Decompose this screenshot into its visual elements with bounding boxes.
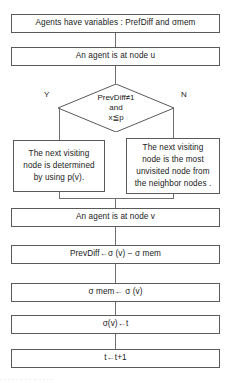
branch-no-line-2: node is the most xyxy=(135,154,212,166)
branch-yes-line-2: node is determined xyxy=(23,160,94,172)
connector-sigma-mem-to-sigma-v xyxy=(115,302,116,315)
branch-no-line-4: the neighbor nodes . xyxy=(135,178,212,190)
node-t-increment: t←t+1 xyxy=(11,349,220,368)
connector-merge-bar xyxy=(59,198,174,199)
connector-agent-u-to-decision xyxy=(115,66,116,84)
decision-line-3: x≦p xyxy=(108,113,123,123)
decision-line-2: and xyxy=(109,103,122,113)
connector-sigma-v-to-t-increment xyxy=(115,334,116,349)
node-branch-no: The next visiting node is the most unvis… xyxy=(126,138,220,194)
branch-yes-line-1: The next visiting xyxy=(23,148,94,160)
caption-fragment: . . . . . .. . . .. . . . . xyxy=(0,374,231,383)
connector-prevdiff-to-sigma-mem xyxy=(115,264,116,283)
node-prevdiff-update: PrevDiff←σ (v) − σ mem xyxy=(11,245,220,264)
connector-agent-v-to-prevdiff xyxy=(115,227,116,245)
node-agent-at-node-v: An agent is at node v xyxy=(11,208,220,227)
node-sigma-mem-update: σ mem← σ (v) xyxy=(11,283,220,302)
node-branch-yes: The next visiting node is determined by … xyxy=(13,140,105,192)
branch-no-line-3: unvisited node from xyxy=(135,166,212,178)
decision-diamond: PrevDiff≠1 and x≦p xyxy=(58,84,174,132)
connector-variables-to-agent-u xyxy=(115,33,116,47)
node-agent-at-node-u: An agent is at node u xyxy=(11,47,220,66)
branch-no-line-1: The next visiting xyxy=(135,142,212,154)
branch-yes-line-3: by using p(v). xyxy=(23,172,94,184)
node-agents-have-variables: Agents have variables : PrefDiff and σme… xyxy=(11,14,220,33)
flowchart-diagram: Agents have variables : PrefDiff and σme… xyxy=(0,0,231,383)
node-sigma-v-update: σ(v)←t xyxy=(11,315,220,334)
edge-label-yes: Y xyxy=(44,90,49,99)
edge-label-no: N xyxy=(181,90,187,99)
decision-text: PrevDiff≠1 and x≦p xyxy=(58,84,174,132)
connector-merge-to-agent-v xyxy=(115,198,116,208)
decision-line-1: PrevDiff≠1 xyxy=(97,93,134,103)
